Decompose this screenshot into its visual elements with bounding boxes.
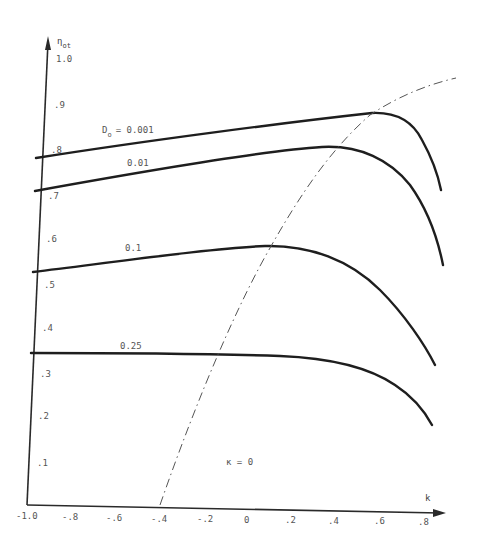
svg-text:.2: .2 (285, 515, 296, 525)
label-d0-0001: Do= 0.001 (102, 125, 154, 139)
svg-text:.4: .4 (42, 323, 53, 333)
svg-text:.2: .2 (38, 411, 49, 421)
curve-d0-01 (33, 246, 435, 365)
svg-text:-.8: -.8 (62, 512, 78, 522)
svg-text:.6: .6 (46, 234, 57, 244)
x-tick-labels: -1.0 -.8 -.6 -.4 -.2 0 .2 .4 .6 .8 (16, 511, 429, 527)
svg-text:.8: .8 (418, 517, 429, 527)
svg-text:.4: .4 (328, 516, 339, 526)
y-tick-labels: .1 .2 .3 .4 .5 .6 .7 .8 .9 1.0 (37, 54, 72, 468)
label-kappa-zero: κ = 0 (226, 457, 253, 467)
svg-text:-.2: -.2 (197, 514, 213, 524)
curve-d0-025 (31, 353, 432, 425)
svg-text:.1: .1 (37, 458, 48, 468)
svg-text:-.4: -.4 (151, 514, 167, 524)
label-d0-001: 0.01 (127, 158, 149, 168)
svg-text:.6: .6 (374, 516, 385, 526)
svg-text:.9: .9 (54, 100, 65, 110)
curve-d0-0001 (36, 113, 441, 190)
svg-text:0: 0 (244, 515, 249, 525)
label-d0-01: 0.1 (125, 243, 141, 253)
svg-text:-.6: -.6 (106, 513, 122, 523)
efficiency-chart: ηot k .1 .2 .3 .4 .5 .6 .7 .8 .9 1.0 -1.… (0, 0, 478, 559)
svg-text:.5: .5 (44, 280, 55, 290)
y-axis-label: ηot (57, 36, 71, 50)
curve-kappa-zero (160, 78, 456, 505)
x-axis-label: k (425, 493, 431, 503)
x-axis-arrow-icon (433, 509, 446, 517)
svg-text:-1.0: -1.0 (16, 511, 38, 521)
svg-text:.7: .7 (48, 191, 59, 201)
svg-text:.3: .3 (40, 369, 51, 379)
label-d0-025: 0.25 (120, 341, 142, 351)
y-axis-arrow-icon (45, 36, 51, 50)
svg-text:1.0: 1.0 (56, 54, 72, 64)
